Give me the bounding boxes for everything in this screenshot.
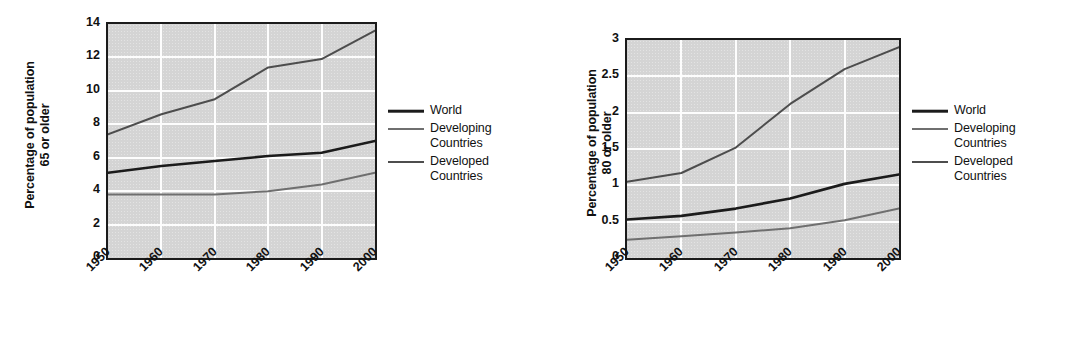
series-layer [627, 40, 899, 258]
legend-line-swatch-developed [912, 155, 948, 169]
y-axis-title-line2: 65 or older [38, 35, 53, 235]
figure-two-line-charts: Percentage of population 65 or older 024… [0, 0, 1077, 341]
chart-panel-80-or-older: Percentage of population 80 or older 00.… [537, 0, 1077, 341]
series-line-world [627, 174, 899, 219]
legend-label-world: World [430, 103, 462, 118]
legend-label-developed: Developed Countries [954, 154, 1013, 184]
y-tick-label: 10 [60, 83, 100, 95]
y-axis-title-line1: Percentage of population [23, 61, 37, 209]
legend-line-swatch-developing [388, 122, 424, 136]
legend-label-world: World [954, 103, 986, 118]
legend-item-developing[interactable]: Developing Countries [388, 121, 528, 151]
legend-line-swatch-developed [388, 155, 424, 169]
plot-area [106, 22, 377, 260]
y-tick-label: 12 [60, 49, 100, 61]
legend-item-developing[interactable]: Developing Countries [912, 121, 1062, 151]
legend-item-developed[interactable]: Developed Countries [912, 154, 1062, 184]
legend-label-developing: Developing Countries [430, 121, 492, 151]
legend-item-world[interactable]: World [912, 103, 1062, 118]
legend-item-developed[interactable]: Developed Countries [388, 154, 528, 184]
y-tick-label: 2 [579, 105, 619, 117]
y-tick-label: 2.5 [579, 68, 619, 80]
series-line-developed [627, 47, 899, 181]
series-layer [108, 24, 375, 258]
series-line-developing [627, 209, 899, 240]
y-tick-label: 1.5 [579, 141, 619, 153]
y-axis-title: Percentage of population 65 or older [23, 35, 53, 235]
y-tick-label: 4 [60, 183, 100, 195]
chart-panel-65-or-older: Percentage of population 65 or older 024… [0, 0, 537, 341]
legend-label-developing: Developing Countries [954, 121, 1016, 151]
series-line-developing [108, 173, 375, 195]
series-line-developed [108, 31, 375, 135]
legend: WorldDeveloping CountriesDeveloped Count… [388, 103, 528, 187]
series-line-world [108, 141, 375, 173]
legend-line-swatch-world [912, 104, 948, 118]
legend-line-swatch-developing [912, 122, 948, 136]
legend: WorldDeveloping CountriesDeveloped Count… [912, 103, 1062, 187]
y-tick-label: 1 [579, 177, 619, 189]
y-tick-label: 8 [60, 116, 100, 128]
legend-item-world[interactable]: World [388, 103, 528, 118]
y-tick-label: 2 [60, 217, 100, 229]
y-tick-label: 14 [60, 16, 100, 28]
legend-label-developed: Developed Countries [430, 154, 489, 184]
y-tick-label: 0.5 [579, 214, 619, 226]
plot-area [625, 38, 901, 260]
legend-line-swatch-world [388, 104, 424, 118]
y-tick-label: 6 [60, 150, 100, 162]
y-tick-label: 3 [579, 32, 619, 44]
